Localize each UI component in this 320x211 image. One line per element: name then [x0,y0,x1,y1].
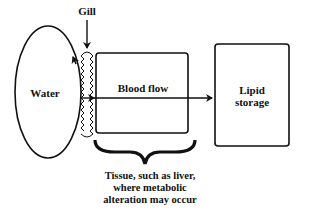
tissue-line1: Tissue, such as liver, [80,170,220,182]
blood-flow-label: Blood flow [108,82,178,94]
tissue-brace [95,140,195,164]
water-circulation-arrow [73,57,76,64]
gill-structure [81,52,93,137]
lipid-storage-line2: storage [215,96,289,108]
tissue-caption: Tissue, such as liver, where metabolic a… [80,170,220,206]
gill-label: Gill [74,5,100,17]
tissue-line3: alteration may occur [80,194,220,206]
lipid-storage-line1: Lipid [215,84,289,96]
water-label: Water [20,87,70,99]
tissue-line2: where metabolic [80,182,220,194]
lipid-storage-label: Lipid storage [215,84,289,108]
